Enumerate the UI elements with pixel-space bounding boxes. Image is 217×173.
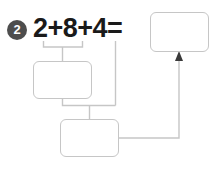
answer-box-partial-1[interactable] [33,61,92,99]
answer-box-result[interactable] [150,12,209,52]
connector-partial-1-to-partial-2 [63,99,116,106]
equation-text: 2+8+4= [33,12,122,44]
arrowhead-icon [175,51,183,61]
item-number-marker: 2 [7,20,27,40]
answer-box-partial-2[interactable] [60,119,119,157]
worksheet-problem: 2 2+8+4= [0,0,217,173]
connector-partial-2-to-result [119,57,179,138]
